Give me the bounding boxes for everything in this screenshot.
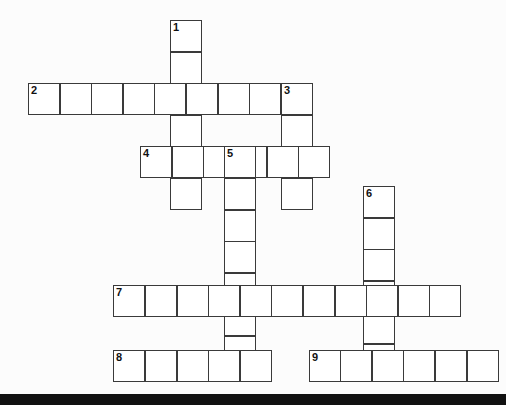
crossword-cell[interactable] xyxy=(267,146,299,178)
crossword-cell[interactable] xyxy=(170,52,202,84)
crossword-cell[interactable] xyxy=(281,178,313,210)
crossword-cell[interactable]: 8 xyxy=(113,350,145,382)
cell-number-2: 2 xyxy=(31,84,37,97)
cell-number-1: 1 xyxy=(173,21,179,34)
crossword-cell[interactable] xyxy=(145,350,177,382)
cell-number-6: 6 xyxy=(366,187,372,200)
crossword-cell[interactable] xyxy=(186,83,218,115)
crossword-cell[interactable] xyxy=(335,285,367,317)
crossword-cell[interactable] xyxy=(366,285,398,317)
crossword-cell[interactable] xyxy=(281,115,313,147)
crossword-cell[interactable] xyxy=(208,350,240,382)
cell-number-3: 3 xyxy=(284,84,290,97)
crossword-cell[interactable] xyxy=(123,83,155,115)
crossword-cell[interactable] xyxy=(224,178,256,210)
crossword-cell[interactable]: 7 xyxy=(113,285,145,317)
crossword-cell[interactable]: 6 xyxy=(363,186,395,218)
crossword-cell[interactable] xyxy=(172,146,204,178)
crossword-cell[interactable] xyxy=(208,285,240,317)
crossword-cell[interactable] xyxy=(398,285,430,317)
crossword-cell[interactable] xyxy=(363,249,395,281)
crossword-cell[interactable] xyxy=(224,241,256,273)
crossword-cell[interactable]: 4 xyxy=(140,146,172,178)
crossword-cell[interactable]: 9 xyxy=(309,350,341,382)
bottom-black-bar xyxy=(0,394,506,405)
crossword-cell[interactable] xyxy=(60,83,92,115)
cell-number-5: 5 xyxy=(227,147,233,160)
crossword-cell[interactable] xyxy=(240,285,272,317)
crossword-cell[interactable] xyxy=(154,83,186,115)
crossword-cell[interactable] xyxy=(240,350,272,382)
crossword-cell[interactable] xyxy=(429,285,461,317)
crossword-cell[interactable] xyxy=(467,350,499,382)
crossword-cell[interactable] xyxy=(224,210,256,242)
crossword-cell[interactable] xyxy=(403,350,435,382)
crossword-puzzle-canvas: 123456789 xyxy=(0,0,506,405)
crossword-cell[interactable] xyxy=(340,350,372,382)
crossword-cell[interactable] xyxy=(372,350,404,382)
crossword-cell[interactable] xyxy=(303,285,335,317)
crossword-cell[interactable] xyxy=(218,83,250,115)
crossword-cell[interactable] xyxy=(298,146,330,178)
cell-number-9: 9 xyxy=(312,351,318,364)
crossword-cell[interactable] xyxy=(435,350,467,382)
crossword-cell[interactable]: 1 xyxy=(170,20,202,52)
cell-number-4: 4 xyxy=(143,147,149,160)
crossword-cell[interactable]: 2 xyxy=(28,83,60,115)
crossword-cell[interactable] xyxy=(177,285,209,317)
crossword-cell[interactable] xyxy=(271,285,303,317)
crossword-cell[interactable] xyxy=(145,285,177,317)
crossword-cell[interactable] xyxy=(170,115,202,147)
cell-number-8: 8 xyxy=(116,351,122,364)
crossword-cell[interactable] xyxy=(363,218,395,250)
crossword-cell[interactable]: 3 xyxy=(281,83,313,115)
crossword-cell[interactable] xyxy=(91,83,123,115)
crossword-cell[interactable] xyxy=(249,83,281,115)
crossword-cell[interactable]: 5 xyxy=(224,146,256,178)
cell-number-7: 7 xyxy=(116,286,122,299)
crossword-cell[interactable] xyxy=(177,350,209,382)
crossword-cell[interactable] xyxy=(170,178,202,210)
